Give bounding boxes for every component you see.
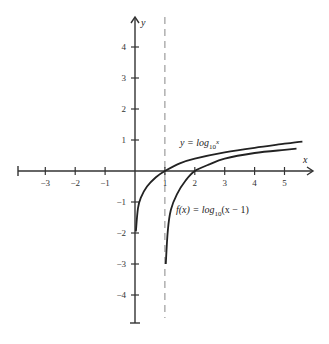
- y-axis-label: y: [140, 17, 146, 28]
- chart: −3−2−1123454321−1−2−3−4 yxy = log10xf(x)…: [0, 0, 329, 344]
- y-tick-label: 3: [122, 73, 127, 83]
- x-axis-label: x: [302, 154, 308, 165]
- label-f-x-log10-x-minus-1: f(x) = log10(x − 1): [176, 204, 249, 218]
- y-tick-label: 4: [122, 42, 127, 52]
- x-tick-label: 3: [222, 178, 227, 188]
- x-tick-label: −1: [100, 178, 110, 188]
- y-tick-label: −1: [116, 197, 126, 207]
- y-tick-label: −2: [116, 228, 126, 238]
- x-tick-label: 2: [193, 178, 198, 188]
- x-tick-label: 4: [252, 178, 257, 188]
- curves: [136, 142, 303, 264]
- label-y-log10-x: y = log10x: [179, 137, 220, 151]
- y-tick-label: 1: [122, 135, 127, 145]
- y-tick-label: −3: [116, 259, 126, 269]
- y-tick-label: −4: [116, 290, 126, 300]
- x-tick-label: −3: [41, 178, 51, 188]
- x-tick-label: 1: [163, 178, 168, 188]
- x-tick-label: −2: [70, 178, 80, 188]
- x-tick-label: 5: [282, 178, 287, 188]
- y-tick-label: 2: [122, 104, 127, 114]
